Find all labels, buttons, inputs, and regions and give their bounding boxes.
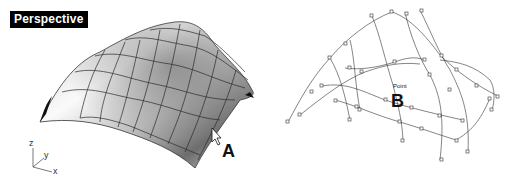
viewport-title[interactable]: Perspective: [10, 11, 88, 28]
axis-gizmo-icon: [33, 148, 52, 172]
callout-b-label: B: [391, 91, 404, 112]
point-tooltip: Point: [393, 83, 407, 89]
axis-z-label: z: [29, 138, 34, 148]
callout-a-label: A: [222, 141, 235, 162]
axis-y-label: y: [44, 150, 49, 160]
axis-x-label: x: [53, 166, 58, 176]
